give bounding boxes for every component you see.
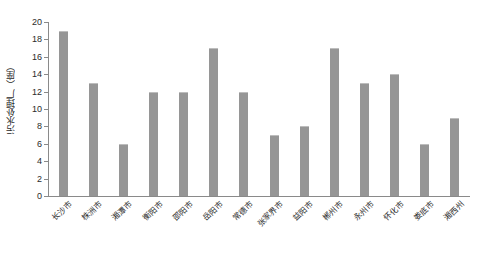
y-axis-tick-mark <box>44 161 48 162</box>
y-axis-tick-mark <box>44 92 48 93</box>
x-axis-tick-label: 湘潭市 <box>111 200 134 223</box>
plot-area <box>48 22 470 196</box>
bar <box>59 31 68 196</box>
x-axis-tick-label: 永州市 <box>353 200 376 223</box>
y-axis-tick-label: 16 <box>32 52 42 61</box>
x-axis-line <box>48 196 470 197</box>
y-axis-title: 污水处理厂（座） <box>2 0 18 196</box>
y-axis-tick-mark <box>44 57 48 58</box>
y-axis-tick-labels: 02468101214161820 <box>18 0 44 200</box>
y-axis-tick-label: 14 <box>32 70 42 79</box>
bar <box>89 83 98 196</box>
y-axis-tick-label: 18 <box>32 35 42 44</box>
bar <box>390 74 399 196</box>
x-axis-tick-label: 长沙市 <box>51 200 74 223</box>
bar <box>239 92 248 196</box>
x-axis-tick-label: 怀化市 <box>383 200 406 223</box>
bar <box>179 92 188 196</box>
bar <box>270 135 279 196</box>
y-axis-tick-label: 20 <box>32 18 42 27</box>
y-axis-tick-mark <box>44 126 48 127</box>
bar <box>360 83 369 196</box>
bar <box>450 118 459 196</box>
y-axis-tick-label: 6 <box>37 139 42 148</box>
y-axis-tick-label: 8 <box>37 122 42 131</box>
x-axis-tick-label: 益阳市 <box>292 200 315 223</box>
y-axis-title-text: 污水处理厂（座） <box>6 62 15 134</box>
y-axis-tick-label: 10 <box>32 105 42 114</box>
x-axis-tick-label: 张家界市 <box>256 200 284 228</box>
y-axis-tick-label: 4 <box>37 157 42 166</box>
x-axis-tick-label: 邵阳市 <box>172 200 195 223</box>
y-axis-tick-mark <box>44 22 48 23</box>
x-axis-tick-label: 株洲市 <box>81 200 104 223</box>
y-axis-tick-mark <box>44 196 48 197</box>
bar <box>330 48 339 196</box>
x-axis-tick-labels: 长沙市株洲市湘潭市衡阳市邵阳市岳阳市常德市张家界市益阳市郴州市永州市怀化市娄底市… <box>48 198 470 256</box>
x-axis-tick-label: 衡阳市 <box>142 200 165 223</box>
bar-chart-figure: 污水处理厂（座） 02468101214161820 长沙市株洲市湘潭市衡阳市邵… <box>0 0 482 257</box>
bar <box>149 92 158 196</box>
bar <box>420 144 429 196</box>
y-axis-line <box>48 22 49 196</box>
x-axis-tick-label: 郴州市 <box>322 200 345 223</box>
y-axis-tick-mark <box>44 39 48 40</box>
y-axis-tick-mark <box>44 179 48 180</box>
y-axis-tick-mark <box>44 109 48 110</box>
x-axis-tick-label: 岳阳市 <box>202 200 225 223</box>
x-axis-tick-label: 常德市 <box>232 200 255 223</box>
y-axis-tick-label: 12 <box>32 87 42 96</box>
bar <box>119 144 128 196</box>
y-axis-tick-label: 0 <box>37 192 42 201</box>
x-axis-tick-label: 娄底市 <box>413 200 436 223</box>
y-axis-tick-mark <box>44 74 48 75</box>
x-axis-tick-label: 湘西州 <box>443 200 466 223</box>
y-axis-tick-mark <box>44 144 48 145</box>
bar <box>300 126 309 196</box>
bar <box>209 48 218 196</box>
y-axis-tick-label: 2 <box>37 174 42 183</box>
